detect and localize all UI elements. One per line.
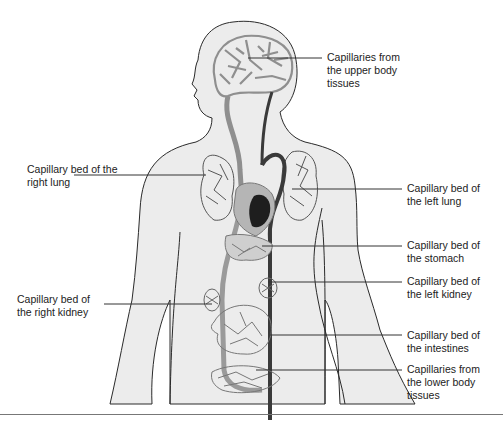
label-right-kidney: Capillary bed of the right kidney xyxy=(17,293,90,319)
label-lower-body-capillaries: Capillaries from the lower body tissues xyxy=(407,363,480,402)
bottom-divider xyxy=(0,414,503,415)
label-upper-body-capillaries: Capillaries from the upper body tissues xyxy=(327,51,400,90)
label-left-kidney: Capillary bed of the left kidney xyxy=(407,275,480,301)
circulatory-diagram: Capillaries from the upper body tissues … xyxy=(0,0,503,424)
body-illustration xyxy=(0,0,503,424)
label-intestines: Capillary bed of the intestines xyxy=(407,329,480,355)
label-stomach: Capillary bed of the stomach xyxy=(407,239,480,265)
label-right-lung: Capillary bed of the right lung xyxy=(27,163,117,189)
label-left-lung: Capillary bed of the left lung xyxy=(407,182,480,208)
